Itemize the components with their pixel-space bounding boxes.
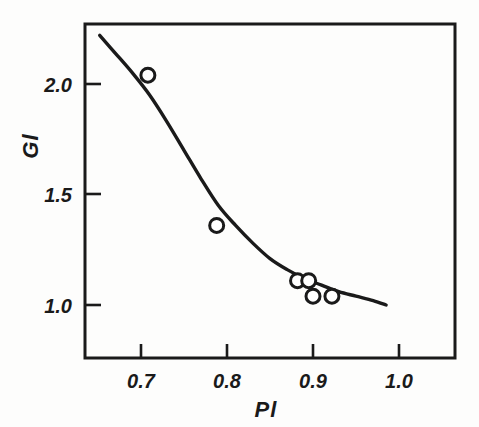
x-tick-label-3: 1.0 (385, 370, 413, 392)
data-point-0 (141, 68, 155, 82)
data-point-3 (302, 274, 316, 288)
x-tick-label-1: 0.8 (213, 370, 242, 392)
data-point-1 (210, 218, 224, 232)
x-tick-label-2: 0.9 (299, 370, 328, 392)
plot-background (0, 0, 479, 427)
x-tick-label-0: 0.7 (127, 370, 156, 392)
figure-root: 0.7 0.8 0.9 1.0 2.0 1.5 1.0 Pl Gl (0, 0, 479, 427)
x-axis-title: Pl (255, 397, 278, 422)
scatter-plot: 0.7 0.8 0.9 1.0 2.0 1.5 1.0 Pl Gl (0, 0, 479, 427)
y-axis-title: Gl (18, 133, 43, 158)
data-point-5 (325, 289, 339, 303)
y-tick-label-2: 2.0 (43, 74, 72, 96)
y-tick-label-1: 1.5 (44, 184, 73, 206)
data-point-4 (306, 289, 320, 303)
y-tick-label-0: 1.0 (44, 295, 72, 317)
